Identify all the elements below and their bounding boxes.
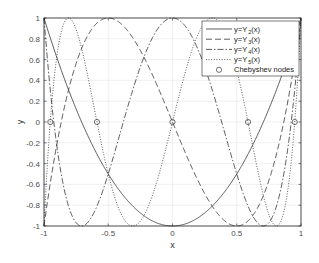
y-tick-label: -1 <box>33 222 41 231</box>
y-tick-label: -0.6 <box>26 180 40 189</box>
x-tick-label: 1 <box>299 229 304 238</box>
legend-label-chebyshev-nodes: Chebyshev nodes <box>234 65 294 74</box>
y-tick-label: -0.2 <box>26 139 40 148</box>
x-axis-label: x <box>170 240 175 250</box>
y-tick-label: -0.4 <box>26 160 40 169</box>
y-tick-label: 1 <box>36 14 41 23</box>
y-axis-label: y <box>15 119 25 124</box>
x-tick-label: 0.5 <box>231 229 243 238</box>
x-tick-label: 0 <box>170 229 175 238</box>
y-tick-label: 0.4 <box>29 76 41 85</box>
x-tick-label: -0.5 <box>101 229 115 238</box>
x-tick-labels: -1-0.500.51 <box>40 229 303 238</box>
legend: y=Y2(x)y=Y3(x)y=Y4(x)y=Y5(x)Chebyshev no… <box>202 21 299 76</box>
y-tick-label: 0.8 <box>29 35 41 44</box>
y-tick-label: 0.6 <box>29 56 41 65</box>
chart-figure: -1-0.500.51 -1-0.8-0.6-0.4-0.200.20.40.6… <box>0 0 319 263</box>
x-tick-label: -1 <box>40 229 48 238</box>
y-tick-label: 0 <box>36 118 41 127</box>
y-tick-labels: -1-0.8-0.6-0.4-0.200.20.40.60.81 <box>26 14 40 231</box>
y-tick-label: -0.8 <box>26 201 40 210</box>
y-tick-label: 0.2 <box>29 97 41 106</box>
